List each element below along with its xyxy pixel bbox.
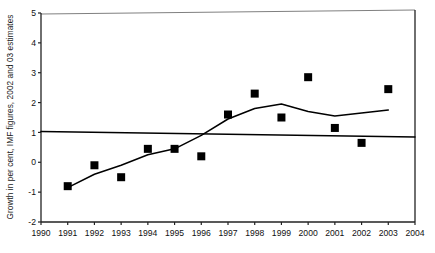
x-axis-tick-label: 2000	[299, 228, 318, 238]
data-point-marker	[358, 139, 366, 147]
x-axis-tick-label: 1990	[31, 228, 50, 238]
x-axis-tick-label: 1997	[218, 228, 237, 238]
x-axis-tick-label: 2002	[352, 228, 371, 238]
y-axis-tick-label: -1	[28, 187, 36, 197]
data-point-marker	[144, 145, 152, 153]
data-point-marker	[117, 173, 125, 181]
chart-plot-area: 543210-1-2199019911992199319941995199619…	[0, 0, 435, 253]
data-point-marker	[251, 90, 259, 98]
data-point-marker	[277, 114, 285, 122]
y-axis-tick-label: 3	[31, 68, 36, 78]
x-axis-tick-label: 1995	[165, 228, 184, 238]
plot-top-border	[41, 10, 415, 14]
y-axis-tick-label: 1	[31, 128, 36, 138]
y-axis-tick-label: 0	[31, 157, 36, 167]
data-point-marker	[384, 85, 392, 93]
y-axis-tick-label: 5	[31, 8, 36, 18]
x-axis-tick-label: 1993	[112, 228, 131, 238]
x-axis-tick-label: 1992	[85, 228, 104, 238]
data-point-marker	[197, 152, 205, 160]
x-axis-tick-label: 1999	[272, 228, 291, 238]
x-axis-tick-label: 1994	[138, 228, 157, 238]
y-axis-tick-label: 2	[31, 98, 36, 108]
chart-figure: Growth in per cent, IMF figures, 2002 an…	[0, 0, 435, 253]
data-point-marker	[90, 161, 98, 169]
data-point-marker	[331, 124, 339, 132]
data-point-marker	[304, 73, 312, 81]
x-axis-tick-label: 1998	[245, 228, 264, 238]
x-axis-tick-label: 1996	[192, 228, 211, 238]
y-axis-tick-label: 4	[31, 38, 36, 48]
x-axis-tick-label: 2001	[325, 228, 344, 238]
x-axis-tick-label: 2004	[405, 228, 424, 238]
x-axis-tick-label: 1991	[58, 228, 77, 238]
x-axis-tick-label: 2003	[379, 228, 398, 238]
y-axis-tick-label: -2	[28, 217, 36, 227]
series-line	[41, 132, 415, 137]
